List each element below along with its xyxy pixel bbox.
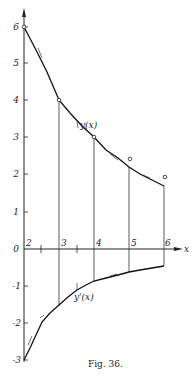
y-tick-label: 6 (13, 22, 19, 32)
figure-caption: Fig. 36. (88, 359, 123, 369)
yprime-curve-label: y'(x) (73, 292, 94, 302)
figure-36: 6 5 4 3 2 1 0 -1 -2 -3 2 3 4 5 6 x (0, 0, 192, 384)
x-tick-label: 5 (131, 238, 137, 248)
y-tick-label: 3 (13, 132, 19, 142)
yprime-slope-marks (28, 274, 117, 345)
y-tick-labels: 6 5 4 3 2 1 0 -1 -2 -3 (12, 22, 21, 365)
y-ticks (24, 27, 28, 360)
y-tick-label: -1 (12, 281, 21, 291)
y-axis-arrow-icon (22, 8, 26, 17)
x-tick-labels: 2 3 4 5 6 x (25, 238, 189, 254)
x-tick-label: 3 (61, 238, 67, 248)
x-tick-label: 2 (25, 238, 32, 248)
x-axis-arrow-icon (174, 247, 183, 251)
y-tick-label: 4 (12, 95, 19, 105)
y-tick-label: 1 (13, 207, 19, 217)
vertical-lines (59, 100, 164, 305)
exact-points (22, 25, 167, 179)
y-tick-label: 0 (13, 244, 19, 254)
y-tick-label: 2 (12, 169, 19, 179)
x-tick-label: 4 (95, 238, 102, 248)
x-axis-label: x (184, 244, 189, 254)
y-tick-label: 5 (13, 58, 19, 68)
y-tick-label: -2 (12, 318, 21, 328)
y-curve-label: y(x) (79, 120, 98, 130)
x-tick-label: 6 (165, 238, 171, 248)
y-tick-label: -3 (12, 355, 21, 365)
axes (22, 8, 183, 362)
